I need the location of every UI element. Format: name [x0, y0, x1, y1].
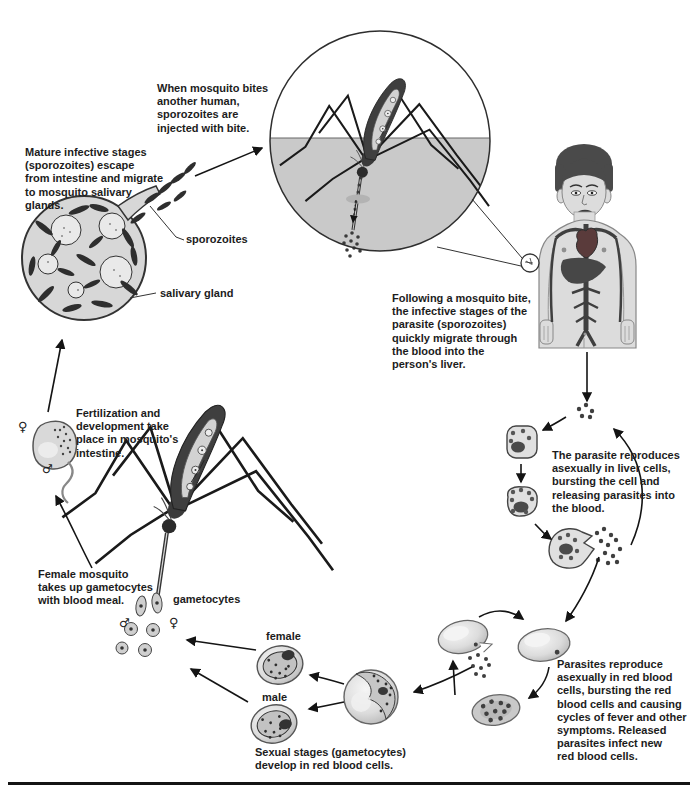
annotation-female-mosquito: Female mosquito takes up gametocytes wit…: [38, 568, 190, 608]
arrow-rbc-3-1: [453, 661, 455, 695]
liver-cell-bursting: [549, 529, 594, 568]
male-symbol-fertilization: ♂: [42, 463, 53, 475]
liver-cell-2: [508, 487, 537, 516]
flagellum: [62, 462, 72, 503]
male-gametocyte-cell: [247, 700, 301, 748]
annotation-when-bite: When mosquito bites another human, sporo…: [157, 82, 309, 135]
label-gametocytes: gametocytes: [173, 593, 240, 605]
rbc-released-parasites-dots: [468, 653, 491, 678]
arrow-sporozoites-to-bite: [195, 148, 262, 176]
fertilization-cell: [33, 421, 77, 503]
arrow-to-salivary-gland: [48, 340, 62, 412]
sporozoite-dots-liver: [577, 403, 594, 419]
liver-cell-1: [507, 426, 537, 458]
annotation-following-bite: Following a mosquito bite, the infective…: [392, 292, 570, 371]
label-sporozoites: sporozoites: [186, 233, 248, 245]
arrow-to-female-cell: [310, 675, 344, 684]
annotation-mature-stages: Mature infective stages (sporozoites) es…: [25, 146, 203, 212]
arrow-to-fertilization: [56, 496, 92, 568]
annotation-sexual-stages: Sexual stages (gametocytes) develop in r…: [255, 746, 450, 772]
arrow-female-to-gametocytes: [187, 640, 256, 650]
bite-magnifier-circle: [268, 31, 492, 258]
arrow-rbc-to-gametocyte: [414, 667, 472, 692]
arrow-male-to-gametocytes: [191, 669, 248, 702]
female-gametocyte-cell: [254, 642, 307, 689]
bottom-rule: [8, 782, 690, 785]
rbc-bursting-cell: [435, 616, 493, 661]
arrow-dots-to-liver-cell: [543, 417, 566, 430]
female-symbol-fertilization: ♀: [18, 420, 28, 433]
label-salivary-gland: salivary gland: [160, 287, 233, 299]
arrow-rbc-2-3: [529, 667, 549, 698]
arrow-rbc-1-2: [479, 611, 523, 619]
label-female: female: [266, 630, 301, 642]
rbc-developing-gametocyte: [344, 670, 398, 724]
annotation-liver-reproduction: The parasite reproduces asexually in liv…: [552, 449, 696, 515]
annotation-fertilization: Fertilization and development take place…: [76, 407, 208, 460]
arrow-liver-cell-2-3: [535, 524, 551, 539]
annotation-rbc-reproduction: Parasites reproduce asexually in red blo…: [557, 658, 697, 764]
male-symbol-gametocytes: ♂: [119, 617, 130, 629]
rbc-schizont-cell: [470, 691, 522, 729]
arrow-to-male-cell: [309, 702, 344, 709]
skin-dimple: [346, 195, 370, 204]
malaria-life-cycle-diagram: When mosquito bites another human, sporo…: [0, 0, 698, 803]
female-symbol-gametocytes: ♀: [169, 616, 179, 629]
label-male: male: [262, 691, 287, 703]
